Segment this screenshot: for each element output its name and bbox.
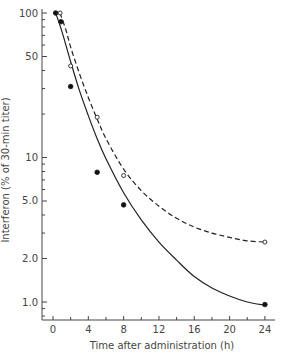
open-data-point [122, 174, 126, 178]
y-tick-label: 100 [19, 8, 38, 19]
filled-data-point [95, 170, 100, 175]
x-tick-label: 8 [120, 324, 126, 335]
y-tick-label: 2.0 [22, 253, 38, 264]
filled-data-point [121, 203, 126, 208]
filled-data-point [59, 19, 64, 24]
x-tick-label: 20 [223, 324, 236, 335]
x-tick-label: 12 [153, 324, 166, 335]
x-tick-label: 16 [188, 324, 201, 335]
x-tick-label: 4 [85, 324, 91, 335]
axis-ticks: 048121620241.02.05.01050100 [19, 8, 271, 336]
y-axis-title: Interferon (% of 30-min titer) [0, 97, 11, 242]
fit-curves [56, 13, 265, 305]
solid-fit-curve [56, 13, 265, 305]
x-tick-label: 0 [50, 324, 56, 335]
y-tick-label: 1.0 [22, 297, 38, 308]
filled-data-point [263, 302, 268, 307]
y-tick-label: 5.0 [22, 195, 38, 206]
open-data-point [69, 64, 73, 68]
x-tick-label: 24 [259, 324, 272, 335]
open-data-point [263, 240, 267, 244]
dashed-fit-curve [60, 13, 265, 242]
open-data-point [58, 11, 62, 15]
filled-data-point [68, 84, 73, 89]
chart: 048121620241.02.05.01050100 Time after a… [0, 0, 284, 355]
y-tick-label: 50 [25, 51, 38, 62]
x-axis-title: Time after administration (h) [89, 340, 235, 351]
axes [42, 9, 275, 320]
filled-data-point [53, 11, 58, 16]
y-tick-label: 10 [25, 152, 38, 163]
open-data-point [95, 115, 99, 119]
data-points [53, 11, 267, 307]
